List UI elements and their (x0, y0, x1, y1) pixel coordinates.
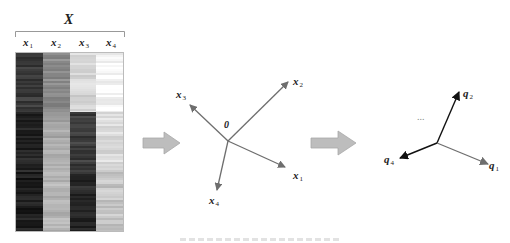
column-label-x2: x2 (51, 37, 61, 50)
vector-label-x3: x3 (176, 89, 186, 102)
vector-q4 (400, 143, 437, 158)
vector-x4 (217, 141, 228, 190)
figure-caption-clipped (180, 238, 340, 241)
vector-label-q2: q2 (463, 88, 473, 101)
heatmap-column-x3 (70, 53, 97, 231)
origin-label: 0 (224, 120, 229, 130)
ellipsis: ... (417, 112, 425, 122)
vector-label-x1: x1 (293, 170, 303, 183)
column-label-x3: x3 (79, 37, 89, 50)
step-arrow-2-icon (308, 128, 360, 158)
vector-x2 (228, 82, 288, 141)
vector-label-q1: q1 (489, 160, 499, 173)
column-label-x1: x1 (23, 37, 33, 50)
vector-x1 (228, 141, 285, 167)
heatmap-column-x2 (43, 53, 70, 231)
original-vectors-diagram (180, 70, 310, 210)
vector-x3 (190, 105, 228, 141)
step-arrow-1-icon (140, 128, 184, 158)
vector-label-x4: x4 (209, 195, 219, 208)
heatmap-column-x4 (96, 53, 123, 231)
transformed-vectors-diagram (390, 80, 500, 180)
data-matrix-heatmap (15, 52, 124, 232)
vector-label-q4: q4 (384, 154, 394, 167)
heatmap-column-x1 (16, 53, 43, 231)
vector-q1 (437, 143, 488, 164)
matrix-bracket (0, 0, 140, 52)
vector-q2 (437, 92, 459, 143)
column-label-x4: x4 (106, 37, 116, 50)
vector-label-x2: x2 (293, 76, 303, 89)
